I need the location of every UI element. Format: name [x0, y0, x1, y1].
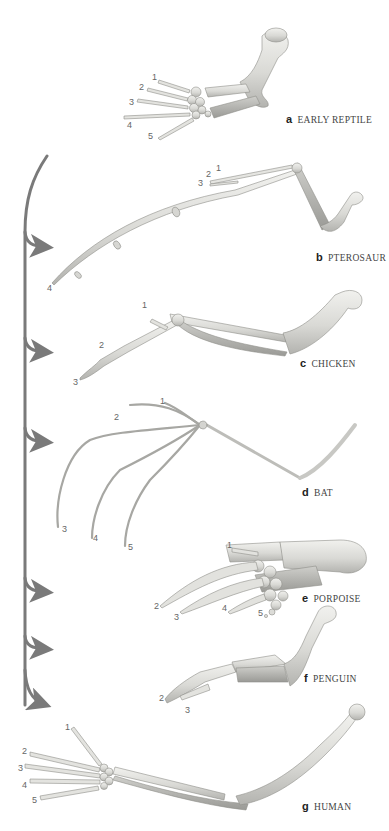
- digit-number: 3: [198, 178, 203, 188]
- label-human: gHUMAN: [302, 800, 351, 812]
- digit-number: 3: [18, 763, 23, 773]
- arrow-branch-b: [25, 232, 45, 247]
- digit-number: 1: [160, 396, 165, 406]
- panel-name: BAT: [314, 488, 333, 498]
- panel-name: PTEROSAUR: [328, 253, 386, 263]
- panel-letter: f: [304, 672, 308, 684]
- digit-number: 2: [99, 340, 104, 350]
- arrow-branch-d: [25, 428, 45, 442]
- label-pterosaur: bPTEROSAUR: [316, 251, 386, 263]
- label-chicken: cCHICKEN: [300, 357, 356, 369]
- digit-number: 5: [32, 795, 37, 805]
- panel-name: HUMAN: [314, 802, 351, 812]
- homologous-forelimbs-diagram: aEARLY REPTILE bPTEROSAUR cCHICKEN dBAT …: [0, 0, 389, 831]
- panel-name: PORPOISE: [313, 594, 360, 604]
- digit-number: 2: [22, 746, 27, 756]
- digit-number: 3: [185, 705, 190, 715]
- early-reptile-forelimb: [124, 28, 288, 140]
- label-bat: dBAT: [302, 486, 333, 498]
- panel-letter: c: [300, 357, 306, 369]
- arrow-branch-g: [25, 670, 43, 704]
- digit-number: 4: [47, 283, 52, 293]
- arrow-trunk: [25, 156, 47, 705]
- porpoise-forelimb: [160, 540, 366, 618]
- digit-number: 2: [114, 412, 119, 422]
- panel-name: CHICKEN: [311, 359, 355, 369]
- digit-number: 3: [62, 524, 67, 534]
- panel-letter: b: [316, 251, 323, 263]
- pterosaur-forelimb: [52, 163, 363, 285]
- digit-number: 4: [22, 780, 27, 790]
- digit-number: 1: [216, 163, 221, 173]
- digit-number: 1: [227, 540, 232, 550]
- arrow-branch-f: [25, 636, 45, 649]
- phylogeny-arrow: [25, 156, 47, 705]
- penguin-forelimb: [165, 606, 336, 703]
- arrow-branch-e: [25, 578, 45, 592]
- digit-number: 4: [127, 120, 132, 130]
- digit-number: 5: [148, 131, 153, 141]
- digit-number: 1: [142, 300, 147, 310]
- digit-number: 3: [129, 97, 134, 107]
- label-penguin: fPENGUIN: [304, 672, 357, 684]
- digit-number: 3: [73, 377, 78, 387]
- arrow-branch-c: [25, 338, 45, 352]
- digit-number: 2: [154, 601, 159, 611]
- digit-number: 3: [174, 612, 179, 622]
- label-porpoise: ePORPOISE: [302, 592, 361, 604]
- digit-number: 4: [93, 533, 98, 543]
- digit-number: 2: [206, 169, 211, 179]
- digit-number: 1: [152, 72, 157, 82]
- digit-number: 2: [139, 82, 144, 92]
- digit-number: 2: [159, 693, 164, 703]
- digit-number: 5: [258, 608, 263, 618]
- panel-letter: e: [302, 592, 308, 604]
- panel-letter: g: [302, 800, 309, 812]
- panel-name: PENGUIN: [313, 674, 357, 684]
- panel-letter: d: [302, 486, 309, 498]
- digit-number: 4: [222, 603, 227, 613]
- human-forelimb: [25, 704, 365, 810]
- panel-name: EARLY REPTILE: [297, 115, 372, 125]
- bat-forelimb: [57, 403, 355, 546]
- digit-number: 1: [65, 722, 70, 732]
- digit-number: 5: [128, 542, 133, 552]
- label-early-reptile: aEARLY REPTILE: [286, 113, 372, 125]
- panel-letter: a: [286, 113, 292, 125]
